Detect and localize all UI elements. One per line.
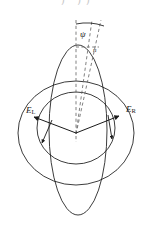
label-field-right-subscript: R <box>132 107 136 114</box>
figure-container: ) )) <box>0 0 155 243</box>
vertical-ellipse <box>49 45 107 215</box>
field-vector-left <box>34 117 76 133</box>
label-field-left-subscript: L <box>32 108 36 115</box>
rotation-arrow-left <box>42 120 52 143</box>
diagram-canvas <box>0 0 155 243</box>
label-field-right: ER <box>126 105 136 115</box>
label-normal-n: n <box>93 47 97 54</box>
field-vector-right <box>76 116 119 133</box>
label-field-left: EL <box>26 106 35 116</box>
label-angle-psi: ψ <box>80 30 86 39</box>
